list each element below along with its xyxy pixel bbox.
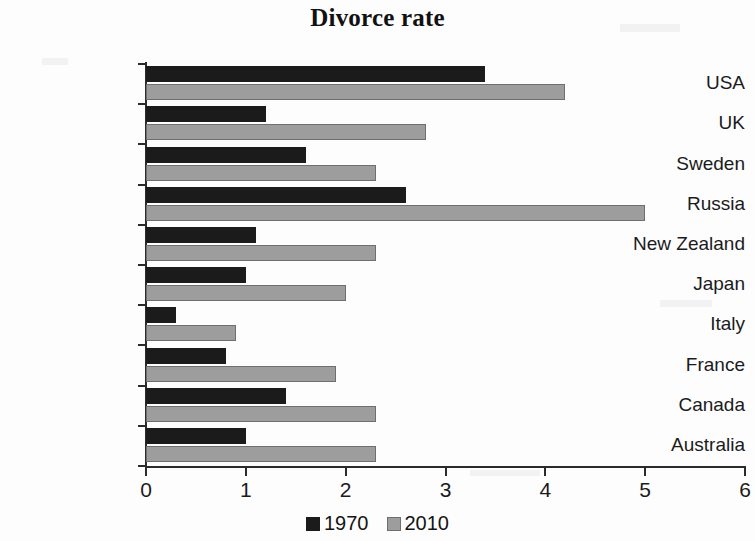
y-axis-tick: [138, 143, 146, 145]
y-axis-tick: [138, 465, 146, 467]
legend-swatch-icon-2010: [387, 517, 401, 531]
bar-italy-1970: [146, 307, 176, 323]
bar-new-zealand-2010: [146, 245, 376, 261]
y-axis-tick: [138, 264, 146, 266]
y-axis-tick: [138, 304, 146, 306]
x-axis-tick: [145, 468, 147, 476]
x-axis-tick-label: 1: [226, 478, 266, 502]
bar-uk-2010: [146, 124, 426, 140]
scan-artifact: [470, 470, 540, 476]
bar-usa-2010: [146, 84, 565, 100]
scan-artifact: [620, 24, 680, 32]
bar-usa-1970: [146, 66, 485, 82]
divorce-rate-bar-chart: Divorce rate USAUKSwedenRussiaNew Zealan…: [0, 0, 755, 541]
x-axis-tick-label: 6: [725, 478, 755, 502]
legend-label-2010: 2010: [405, 512, 450, 535]
bar-australia-1970: [146, 428, 246, 444]
bar-sweden-1970: [146, 147, 306, 163]
y-axis-tick: [138, 385, 146, 387]
x-axis-tick-label: 0: [126, 478, 166, 502]
y-axis-tick: [138, 63, 146, 65]
x-axis-tick: [445, 468, 447, 476]
x-axis-tick-label: 5: [625, 478, 665, 502]
bar-italy-2010: [146, 325, 236, 341]
y-axis-tick: [138, 425, 146, 427]
y-axis-tick: [138, 344, 146, 346]
bar-france-1970: [146, 348, 226, 364]
bar-russia-2010: [146, 205, 645, 221]
bar-france-2010: [146, 366, 336, 382]
legend-entry-2010: 2010: [387, 512, 450, 535]
bar-canada-1970: [146, 388, 286, 404]
bar-uk-1970: [146, 106, 266, 122]
scan-artifact: [42, 58, 68, 65]
chart-legend: 19702010: [0, 512, 755, 535]
x-axis-tick: [744, 468, 746, 476]
x-axis-tick-label: 2: [326, 478, 366, 502]
legend-label-1970: 1970: [324, 512, 369, 535]
bar-new-zealand-1970: [146, 227, 256, 243]
legend-swatch-icon-1970: [306, 517, 320, 531]
legend-entry-1970: 1970: [306, 512, 369, 535]
plot-area: [146, 64, 745, 466]
bar-russia-1970: [146, 187, 406, 203]
x-axis-tick: [644, 468, 646, 476]
x-axis-tick-label: 3: [426, 478, 466, 502]
x-axis-tick-label: 4: [525, 478, 565, 502]
bar-japan-1970: [146, 267, 246, 283]
bar-canada-2010: [146, 406, 376, 422]
y-axis-tick: [138, 184, 146, 186]
x-axis-tick: [544, 468, 546, 476]
bar-sweden-2010: [146, 165, 376, 181]
y-axis-tick: [138, 103, 146, 105]
bar-japan-2010: [146, 285, 346, 301]
y-axis-tick: [138, 224, 146, 226]
bar-australia-2010: [146, 446, 376, 462]
x-axis-tick: [345, 468, 347, 476]
x-axis-tick: [245, 468, 247, 476]
